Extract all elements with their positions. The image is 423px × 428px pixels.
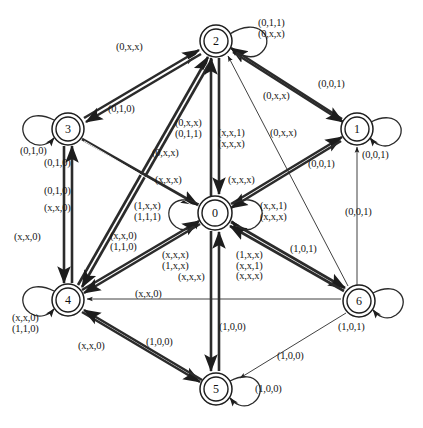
edge-label-2-to-1: (0,0,1) (318, 79, 345, 90)
state-node-4-label: 4 (65, 293, 71, 307)
edge-label-6-to-2: (0,x,x) (270, 128, 297, 139)
edge-label-self-loop-0-left: (1,x,x) (1,1,1) (134, 201, 161, 222)
edge-label-5-to-4: (x,x,0) (78, 341, 105, 352)
edge-0-to-1 (231, 137, 342, 204)
self-loop-1 (370, 118, 401, 146)
state-node-2[interactable]: 2 (200, 25, 232, 57)
edge-label-3-to-2: (0,x,x) (116, 42, 143, 53)
edge-label-2-to-3: (0,1,0) (108, 104, 135, 115)
edge-label-self-loop-3: (0,1,0) (20, 146, 47, 157)
edge-2-to-3 (86, 54, 201, 122)
edge-label-self-loop-0-right: (x,x,1) (x,x,x) (260, 201, 287, 222)
state-node-0-label: 0 (212, 206, 218, 220)
state-node-2-label: 2 (213, 34, 219, 48)
edge-label-0-to-5: (1,0,0) (219, 322, 246, 333)
edge-label-3-to-4-vert: (x,x,0) (14, 232, 41, 243)
self-loop-3 (23, 116, 54, 145)
state-node-6[interactable]: 6 (343, 285, 375, 317)
state-node-4[interactable]: 4 (52, 284, 84, 316)
state-node-6-label: 6 (356, 294, 362, 308)
edge-label-2-to-0-right: (x,x,x) (228, 175, 255, 186)
edge-label-1-to-2: (0,x,x) (263, 91, 290, 102)
edge-label-self-loop-4: (x,x,0) (1,1,0) (12, 313, 39, 334)
edge-label-4-to-5: (1,0,0) (146, 337, 173, 348)
edge-label-0-to-2: (x,x,1) (x,x,x) (218, 128, 245, 149)
state-node-5[interactable]: 5 (200, 373, 232, 405)
edge-label-4-to-0: (x,x,0) (1,1,0) (110, 231, 137, 252)
edge-label-6-to-0: (1,0,1) (290, 244, 317, 255)
state-node-3[interactable]: 3 (52, 113, 84, 145)
edge-label-6-to-5: (1,0,0) (277, 351, 304, 362)
edge-label-4-to-2-upper: (0,x,x) (0,1,1) (175, 118, 202, 139)
state-node-1-label: 1 (354, 122, 360, 136)
edge-label-self-loop-1: (0,0,1) (362, 150, 389, 161)
edge-label-self-loop-6: (1,0,1) (338, 322, 365, 333)
edge-label-self-loop-2: (0,1,1) (0,x,x) (258, 18, 285, 39)
edge-label-0-to-6: (1,x,x) (x,x,1) (x,x,x) (236, 250, 263, 282)
edge-label-4-to-3: (0,1,0) (44, 186, 71, 197)
edge-label-0-to-4-extra: (x,x,x) (178, 272, 205, 283)
edge-label-0-to-1: (0,0,1) (308, 159, 335, 170)
edge-3-to-0 (82, 139, 198, 205)
edge-label-2-to-0-left: (x,x,x) (155, 175, 182, 186)
edge-6-to-5 (240, 313, 346, 378)
self-loop-6 (373, 289, 403, 318)
edge-label-0-to-4: (x,x,x) (1,x,x) (162, 250, 189, 271)
edge-label-3-to-4: (0,1,0) (44, 158, 71, 169)
state-node-3-label: 3 (65, 122, 71, 136)
edge-label-4-to-2-lower: (0,x,x) (152, 148, 179, 159)
edge-label-6-to-1: (0,0,1) (345, 207, 372, 218)
state-machine-diagram: 0 1 2 3 4 (0, 0, 423, 428)
edge-label-self-loop-5: (1,0,0) (255, 384, 282, 395)
state-node-0[interactable]: 0 (198, 196, 232, 230)
state-node-5-label: 5 (213, 382, 219, 396)
state-node-1[interactable]: 1 (341, 113, 373, 145)
edge-label-3-to-4-alt: (x,x,0) (44, 203, 71, 214)
edge-label-6-to-4: (x,x,0) (135, 289, 162, 300)
